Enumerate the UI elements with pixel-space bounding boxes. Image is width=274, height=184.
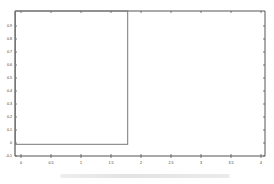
- y-tick-label: 0.5: [7, 76, 12, 80]
- x-tick-label: 0.5: [49, 161, 54, 165]
- y-tick-label: 0.3: [7, 102, 12, 106]
- y-tick-label: 0: [10, 141, 12, 145]
- y-tick-label: 0.6: [7, 63, 12, 67]
- x-tick-label: 2.5: [169, 161, 174, 165]
- y-tick-label: 0.8: [7, 37, 12, 41]
- x-tick-label: 1.5: [109, 161, 114, 165]
- figure-caption-illegible: [60, 174, 230, 178]
- search-space-box: [16, 11, 128, 144]
- y-tick-label: 0.2: [7, 115, 12, 119]
- y-tick-label: 0.1: [7, 128, 12, 132]
- y-tick-label: 0.7: [7, 50, 12, 54]
- x-tick-label: 0: [20, 161, 22, 165]
- x-tick-label: 3: [200, 161, 202, 165]
- y-tick-label: -0.1: [6, 154, 12, 158]
- scatter-chart: 00.511.522.533.54-0.100.10.20.30.40.50.6…: [0, 0, 274, 184]
- x-tick-label: 1: [80, 161, 82, 165]
- y-tick-label: 0.4: [7, 89, 12, 93]
- x-tick-label: 4: [260, 161, 262, 165]
- x-tick-label: 3.5: [229, 161, 234, 165]
- x-tick-label: 2: [140, 161, 142, 165]
- y-tick-label: 0.9: [7, 24, 12, 28]
